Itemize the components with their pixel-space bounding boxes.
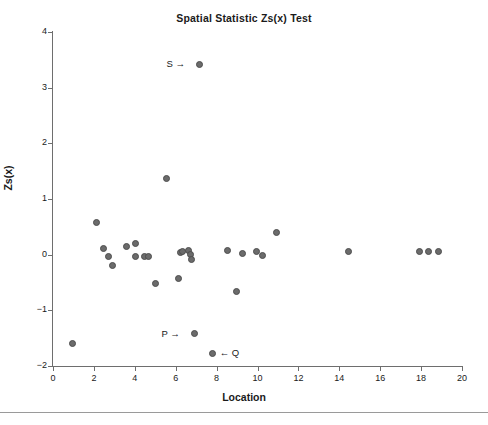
x-tick: [94, 366, 95, 371]
data-point: [152, 280, 159, 287]
x-tick-label: 16: [370, 373, 390, 383]
x-tick: [176, 366, 177, 371]
x-tick-label: 2: [84, 373, 104, 383]
x-tick: [462, 366, 463, 371]
x-tick: [380, 366, 381, 371]
y-tick-label: −2: [27, 360, 47, 370]
chart-figure: Spatial Statistic Zs(x) Test Zs(x) Locat…: [0, 0, 488, 425]
data-point: [224, 247, 231, 254]
data-point: [209, 350, 216, 357]
data-point: [416, 248, 423, 255]
x-tick: [421, 366, 422, 371]
data-point: [188, 256, 195, 263]
data-point: [191, 330, 198, 337]
point-annotation: S →: [166, 58, 184, 69]
point-annotation: ← Q: [220, 347, 240, 358]
x-tick: [53, 366, 54, 371]
y-tick: [48, 143, 53, 144]
y-tick: [48, 32, 53, 33]
data-point: [435, 248, 442, 255]
x-tick-label: 12: [288, 373, 308, 383]
footer-rule: [0, 412, 488, 413]
y-tick: [48, 310, 53, 311]
data-point: [105, 253, 112, 260]
data-point: [175, 275, 182, 282]
y-tick-label: 4: [27, 26, 47, 36]
x-tick-label: 10: [248, 373, 268, 383]
point-annotation: P →: [161, 328, 179, 339]
data-point: [259, 252, 266, 259]
data-point: [233, 288, 240, 295]
x-tick: [217, 366, 218, 371]
y-tick: [48, 88, 53, 89]
chart-title: Spatial Statistic Zs(x) Test: [0, 12, 488, 24]
x-tick-label: 18: [411, 373, 431, 383]
data-point: [132, 253, 139, 260]
plot-area: −2−101234 02468101214161820 S →P →← Q: [53, 32, 462, 366]
y-tick-label: −1: [27, 304, 47, 314]
y-tick: [48, 199, 53, 200]
y-axis-label: Zs(x): [2, 165, 14, 190]
data-point: [123, 243, 130, 250]
data-point: [69, 340, 76, 347]
data-point: [100, 245, 107, 252]
x-tick-label: 6: [166, 373, 186, 383]
data-point: [109, 262, 116, 269]
y-tick-label: 2: [27, 137, 47, 147]
data-point: [239, 250, 246, 257]
y-tick-label: 3: [27, 82, 47, 92]
y-tick-label: 0: [27, 249, 47, 259]
data-point: [163, 175, 170, 182]
data-point: [345, 248, 352, 255]
x-tick-label: 4: [125, 373, 145, 383]
x-tick: [135, 366, 136, 371]
x-tick-label: 14: [329, 373, 349, 383]
y-tick-label: 1: [27, 193, 47, 203]
data-point: [196, 61, 203, 68]
data-point: [93, 219, 100, 226]
x-tick-label: 0: [43, 373, 63, 383]
x-tick-label: 8: [207, 373, 227, 383]
x-tick: [339, 366, 340, 371]
x-tick-label: 20: [452, 373, 472, 383]
data-point: [273, 229, 280, 236]
y-tick: [48, 255, 53, 256]
x-tick: [258, 366, 259, 371]
data-point: [425, 248, 432, 255]
x-axis-label: Location: [0, 391, 488, 403]
data-point: [145, 253, 152, 260]
x-tick: [298, 366, 299, 371]
data-point: [132, 240, 139, 247]
